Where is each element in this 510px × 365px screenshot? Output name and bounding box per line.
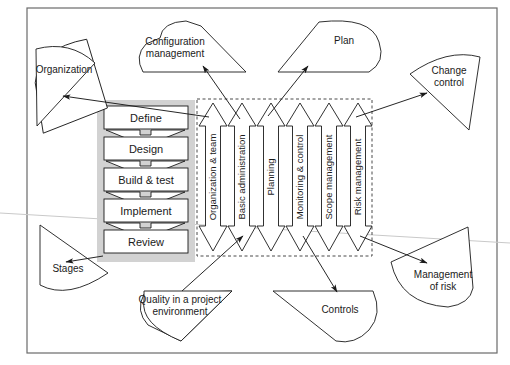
diagram-svg: Define Design Build & test Implement Rev… [0, 0, 510, 365]
component-label: Scope management [323, 134, 334, 219]
component-label: Basic administration [236, 134, 247, 219]
stage-label: Review [128, 236, 164, 248]
stage-label: Design [129, 143, 163, 155]
stage-box-build-test[interactable]: Build & test [104, 168, 188, 191]
component-label: Planning [265, 159, 276, 196]
stage-label: Define [130, 112, 162, 124]
stage-box-design[interactable]: Design [104, 137, 188, 160]
callout-label-line1: Quality in a project [139, 294, 222, 305]
callout-label-line2: of risk [430, 281, 458, 292]
stage-box-implement[interactable]: Implement [104, 199, 188, 222]
stage-box-define[interactable]: Define [104, 106, 188, 129]
callout-label-line2: environment [152, 306, 207, 317]
component-label: Risk management [352, 138, 363, 215]
component-label: Organization & team [207, 134, 218, 221]
callout-label-line1: Management [414, 269, 473, 280]
stage-box-review[interactable]: Review [104, 230, 188, 253]
stage-label: Implement [120, 205, 171, 217]
diagram-canvas: Define Design Build & test Implement Rev… [0, 0, 510, 365]
callout-label-line1: Change [431, 65, 466, 76]
callout-label: Stages [52, 263, 83, 274]
callout-label-line2: management [146, 48, 205, 59]
callout-label: Plan [334, 35, 354, 46]
component-label: Monitoring & control [294, 135, 305, 219]
stage-label: Build & test [118, 174, 174, 186]
callout-label-line1: Configuration [145, 36, 204, 47]
stage-boxes: Define Design Build & test Implement Rev… [104, 106, 188, 253]
callout-label: Controls [321, 304, 358, 315]
callout-label-line2: control [434, 77, 464, 88]
callout-label: Organization [36, 64, 93, 75]
